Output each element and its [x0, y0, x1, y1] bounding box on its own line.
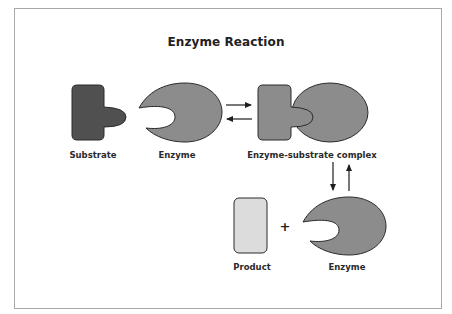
- plus-sign: +: [280, 219, 291, 234]
- substrate-label: Substrate: [69, 150, 116, 160]
- enzyme-released-label: Enzyme: [329, 262, 366, 272]
- enzyme-released-shape: [303, 197, 386, 255]
- substrate-shape: [72, 85, 126, 140]
- complex-shape: [258, 83, 368, 142]
- complex-label: Enzyme-substrate complex: [247, 150, 377, 160]
- enzyme-label: Enzyme: [159, 150, 196, 160]
- product-shape: [234, 198, 267, 253]
- enzyme-shape: [139, 83, 222, 142]
- enzyme-reaction-diagram: [0, 0, 452, 314]
- product-label: Product: [233, 262, 271, 272]
